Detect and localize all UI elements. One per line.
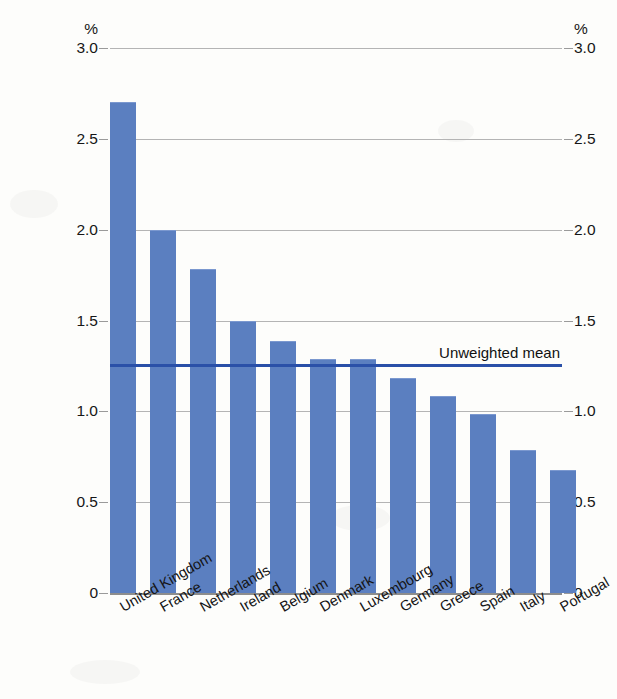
y-axis-left: % 3.02.52.01.51.00.50	[44, 0, 98, 699]
gridline	[110, 411, 562, 412]
bar	[190, 269, 216, 593]
bar	[110, 102, 136, 594]
unweighted-mean-line	[110, 364, 562, 367]
y-axis-right-unit: %	[574, 20, 588, 38]
bar	[150, 230, 176, 593]
y-tick-right	[564, 139, 573, 140]
y-tick-right	[564, 48, 573, 49]
y-axis-left-tick-label: 2.5	[76, 131, 98, 147]
y-tick-right	[564, 411, 573, 412]
y-tick-left	[99, 230, 108, 231]
bar	[470, 414, 496, 593]
y-tick-left	[99, 411, 108, 412]
bar	[350, 359, 376, 593]
y-tick-left	[99, 139, 108, 140]
y-axis-left-tick-label: 1.5	[76, 313, 98, 329]
y-axis-left-tick-label: 3.0	[76, 40, 98, 56]
y-axis-left-tick-label: 1.0	[76, 403, 98, 419]
y-axis-left-tick-label: 0	[89, 585, 98, 601]
y-tick-left	[99, 321, 108, 322]
gridline	[110, 230, 562, 231]
bar	[550, 470, 576, 593]
gridline	[110, 321, 562, 322]
y-tick-left	[99, 48, 108, 49]
bar	[310, 359, 336, 593]
y-axis-right-tick-label: 0.5	[574, 494, 596, 510]
y-tick-left	[99, 502, 108, 503]
y-axis-left-tick-label: 2.0	[76, 222, 98, 238]
y-axis-right-tick-label: 2.0	[574, 222, 596, 238]
bar	[510, 450, 536, 593]
gridline	[110, 139, 562, 140]
bar	[270, 341, 296, 593]
y-axis-left-unit: %	[84, 20, 98, 38]
y-tick-right	[564, 321, 573, 322]
y-axis-left-tick-label: 0.5	[76, 494, 98, 510]
y-tick-left	[99, 593, 108, 594]
gridline	[110, 48, 562, 49]
bar	[430, 396, 456, 593]
bar-chart: % 3.02.52.01.51.00.50 % 3.02.52.01.51.00…	[0, 0, 617, 699]
y-axis-right-tick-label: 2.5	[574, 131, 596, 147]
y-axis-right-tick-label: 1.5	[574, 313, 596, 329]
unweighted-mean-label: Unweighted mean	[420, 344, 560, 361]
y-tick-right	[564, 230, 573, 231]
bar	[230, 321, 256, 593]
y-axis-right-tick-label: 3.0	[574, 40, 596, 56]
y-axis-right-tick-label: 1.0	[574, 403, 596, 419]
plot-area	[110, 48, 562, 593]
bar	[390, 378, 416, 593]
